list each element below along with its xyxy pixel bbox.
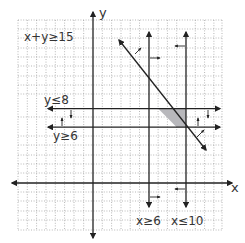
grid (18, 20, 222, 230)
feasible-region (158, 109, 186, 128)
axes (12, 12, 232, 238)
x-axis-label: x (231, 180, 239, 195)
inequality-graph: x+y≥15 y≤8 y≥6 x≥6 x≤10 x y (0, 0, 245, 243)
ineq-label-y-ge-6: y≥6 (53, 129, 78, 143)
ineq-label-x-ge-6: x≥6 (136, 214, 161, 228)
ineq-label-x-plus-y: x+y≥15 (24, 30, 74, 44)
y-axis-label: y (99, 5, 107, 20)
ineq-label-y-le-8: y≤8 (44, 93, 69, 107)
ineq-label-x-le-10: x≤10 (171, 214, 203, 228)
line-x-plus-y-15 (119, 40, 206, 150)
